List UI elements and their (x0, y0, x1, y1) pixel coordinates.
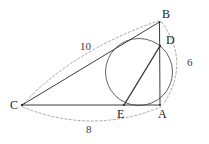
measure-label-cb: 10 (80, 41, 91, 52)
vertex-label-e: E (117, 108, 124, 120)
vertex-point-c (21, 104, 23, 106)
vertex-point-a (159, 104, 161, 106)
figure-canvas (0, 0, 209, 144)
geometry-figure: B D A E C 10 6 8 (0, 0, 209, 144)
vertex-point-e (123, 104, 125, 106)
vertex-label-b: B (162, 8, 170, 20)
vertex-label-a: A (158, 108, 167, 120)
measure-label-ca: 8 (86, 124, 92, 135)
segment-cb (22, 22, 160, 105)
measure-arc-cb (24, 21, 159, 104)
measure-label-ba: 6 (187, 57, 193, 68)
vertex-point-b (158, 21, 160, 23)
vertex-point-d (159, 45, 161, 47)
vertex-label-d: D (166, 34, 175, 46)
segment-ed (124, 46, 160, 105)
vertex-label-c: C (10, 99, 18, 111)
segment-ba (160, 22, 161, 105)
measure-arc-ca (23, 107, 162, 121)
